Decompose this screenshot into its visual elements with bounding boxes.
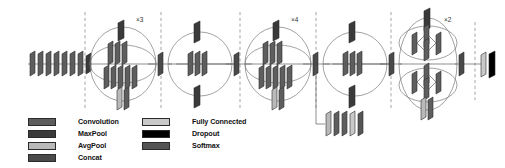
repeat-label-x3: ×3 bbox=[136, 16, 144, 23]
concat-final bbox=[459, 52, 464, 76]
legend-swatch-convolution bbox=[28, 118, 74, 126]
inception-block-c: ×2 bbox=[399, 8, 457, 120]
repeat-label-x2: ×2 bbox=[444, 16, 452, 23]
repeat-label-x4: ×4 bbox=[291, 16, 299, 23]
classifier-head bbox=[459, 51, 495, 78]
inception-block-b: ×4 bbox=[245, 16, 311, 110]
inception-block-a: ×3 bbox=[90, 16, 156, 110]
legend-label-maxpool: MaxPool bbox=[78, 129, 138, 138]
legend-label-concat: Concat bbox=[78, 153, 138, 162]
legend-label-fully-connected: Fully Connected bbox=[192, 117, 246, 126]
reduction-a bbox=[168, 21, 232, 108]
concat-reduction-a bbox=[234, 52, 239, 76]
fully-connected-final bbox=[481, 52, 486, 77]
legend-swatch-dropout bbox=[142, 130, 188, 138]
legend: Convolution Fully Connected MaxPool Drop… bbox=[28, 116, 228, 163]
concat-b bbox=[313, 52, 318, 76]
legend-label-convolution: Convolution bbox=[78, 117, 138, 126]
legend-label-dropout: Dropout bbox=[192, 129, 246, 138]
auxiliary-classifier-branch bbox=[316, 66, 363, 136]
legend-label-softmax: Softmax bbox=[192, 141, 246, 150]
legend-swatch-avgpool bbox=[28, 142, 74, 150]
concat-a bbox=[158, 52, 163, 76]
dropout-final bbox=[489, 51, 495, 78]
stem-stack bbox=[30, 51, 91, 76]
figure-canvas: .blk{stroke:#2b2b2b;stroke-width:0.6;} .… bbox=[0, 0, 505, 168]
legend-swatch-concat bbox=[28, 154, 74, 162]
legend-label-avgpool: AvgPool bbox=[78, 141, 138, 150]
legend-swatch-maxpool bbox=[28, 130, 74, 138]
legend-swatch-fully-connected bbox=[142, 118, 188, 126]
reduction-b bbox=[323, 21, 387, 108]
legend-swatch-softmax bbox=[142, 142, 188, 150]
concat-reduction-b bbox=[389, 52, 394, 76]
